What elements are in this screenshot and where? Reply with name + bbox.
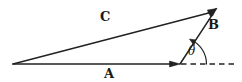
- vector-diagram-canvas: [0, 0, 242, 82]
- vector-c-label: C: [100, 10, 110, 23]
- vector-b-label: B: [208, 18, 219, 31]
- vector-c-arrow: [13, 9, 217, 65]
- vector-a-arrow: [13, 61, 180, 67]
- angle-theta-label: θ: [188, 45, 195, 57]
- vector-a-label: A: [104, 67, 114, 80]
- vector-diagram: C B A θ: [0, 0, 242, 82]
